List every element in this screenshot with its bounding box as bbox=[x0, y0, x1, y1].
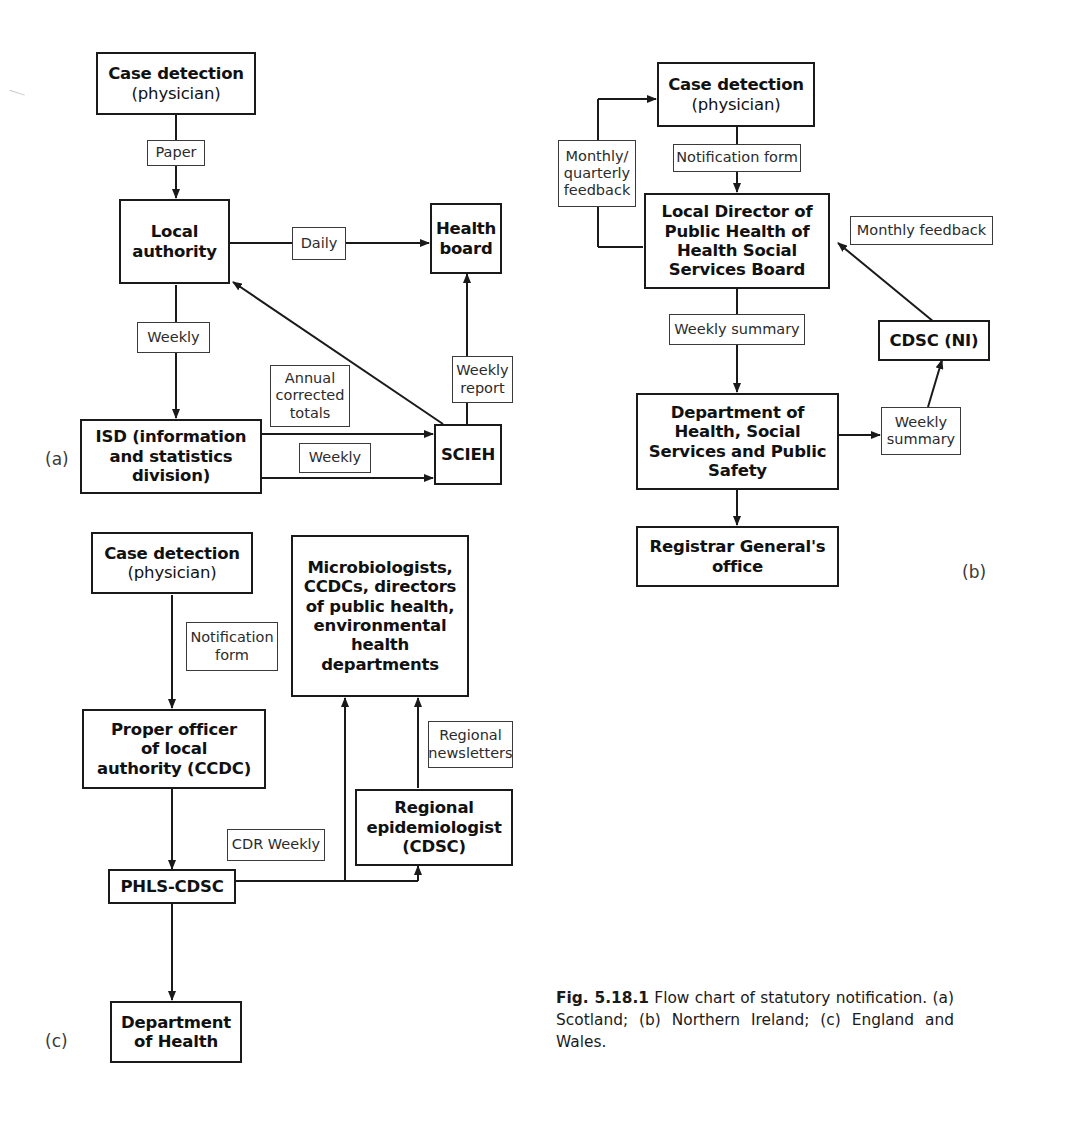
label-a-weekly-down-text: Weekly bbox=[147, 329, 199, 346]
label-a-annual-line3: totals bbox=[290, 405, 331, 422]
figure-canvas: Case detection (physician) Paper Local a… bbox=[0, 0, 1070, 1122]
label-a-paper[interactable]: Paper bbox=[147, 140, 205, 166]
node-b-ldph-line3: Health Social bbox=[662, 241, 813, 260]
label-a-weekly-down[interactable]: Weekly bbox=[137, 322, 210, 353]
node-c-micro-line4: environmental bbox=[304, 616, 456, 635]
label-a-daily[interactable]: Daily bbox=[292, 227, 346, 260]
node-c-regional-line2: epidemiologist bbox=[366, 818, 501, 837]
label-b-weekly-summary-2-line2: summary bbox=[887, 431, 955, 448]
node-a-case-detection[interactable]: Case detection (physician) bbox=[96, 52, 256, 115]
node-a-health-board-line2: board bbox=[436, 239, 496, 258]
node-b-registrar-line1: Registrar General's bbox=[650, 537, 826, 556]
node-c-proper-officer[interactable]: Proper officer of local authority (CCDC) bbox=[82, 709, 266, 789]
node-b-dept-line2: Health, Social bbox=[649, 422, 827, 441]
label-c-notification-line1: Notification bbox=[190, 629, 273, 646]
label-a-weekly-mid[interactable]: Weekly bbox=[299, 443, 371, 473]
label-b-monthlyq-line1: Monthly/ bbox=[566, 148, 629, 165]
node-b-registrar-line2: office bbox=[650, 557, 826, 576]
node-a-scieh-title: SCIEH bbox=[441, 445, 495, 464]
label-a-weekly-report-line2: report bbox=[460, 380, 504, 397]
node-b-ldph-line1: Local Director of bbox=[662, 202, 813, 221]
label-b-notification-form-text: Notification form bbox=[676, 149, 798, 166]
node-a-local-authority-line1: Local bbox=[132, 222, 217, 241]
label-a-daily-text: Daily bbox=[301, 235, 338, 252]
node-b-local-director[interactable]: Local Director of Public Health of Healt… bbox=[644, 193, 830, 289]
figure-caption-prefix: Fig. 5.18.1 bbox=[556, 989, 649, 1007]
label-b-monthly-feedback[interactable]: Monthly feedback bbox=[850, 216, 993, 245]
node-c-micro-line2: CCDCs, directors bbox=[304, 577, 456, 596]
label-b-weekly-summary-1[interactable]: Weekly summary bbox=[669, 314, 805, 345]
node-c-case-detection-title: Case detection bbox=[104, 544, 240, 563]
node-a-isd-line3: division) bbox=[96, 466, 247, 485]
label-a-weekly-report[interactable]: Weekly report bbox=[452, 356, 513, 403]
node-c-doh-line1: Department bbox=[121, 1013, 231, 1032]
scan-artifact bbox=[7, 90, 25, 103]
node-b-case-detection-title: Case detection bbox=[668, 75, 804, 94]
node-b-dept-line4: Safety bbox=[649, 461, 827, 480]
node-a-health-board-line1: Health bbox=[436, 219, 496, 238]
node-b-ldph-line2: Public Health of bbox=[662, 222, 813, 241]
node-a-isd-line2: and statistics bbox=[96, 447, 247, 466]
label-b-monthly-quarterly-feedback[interactable]: Monthly/ quarterly feedback bbox=[558, 140, 636, 207]
label-a-paper-text: Paper bbox=[155, 144, 196, 161]
figure-caption: Fig. 5.18.1 Flow chart of statutory noti… bbox=[556, 988, 954, 1054]
node-b-cdsc-ni-title: CDSC (NI) bbox=[890, 331, 979, 350]
label-b-weekly-summary-2[interactable]: Weekly summary bbox=[881, 407, 961, 455]
label-c-regnews-line1: Regional bbox=[439, 727, 502, 744]
panel-label-b: (b) bbox=[962, 562, 986, 582]
node-a-case-detection-title: Case detection bbox=[108, 64, 244, 83]
label-b-monthlyq-line3: feedback bbox=[564, 182, 631, 199]
node-c-regional-line1: Regional bbox=[366, 798, 501, 817]
label-c-cdr-weekly[interactable]: CDR Weekly bbox=[227, 829, 325, 861]
node-b-cdsc-ni[interactable]: CDSC (NI) bbox=[878, 320, 990, 361]
node-c-case-detection[interactable]: Case detection (physician) bbox=[91, 532, 253, 594]
node-c-proper-line2: of local bbox=[97, 739, 251, 758]
node-c-regional-epidemiologist[interactable]: Regional epidemiologist (CDSC) bbox=[355, 789, 513, 866]
node-b-ldph-line4: Services Board bbox=[662, 260, 813, 279]
label-a-weekly-mid-text: Weekly bbox=[309, 449, 361, 466]
node-c-micro-line1: Microbiologists, bbox=[304, 558, 456, 577]
label-a-annual-line2: corrected bbox=[276, 387, 345, 404]
node-b-case-detection-subtitle: (physician) bbox=[668, 95, 804, 114]
node-c-micro-line5: health bbox=[304, 635, 456, 654]
node-b-department[interactable]: Department of Health, Social Services an… bbox=[636, 393, 839, 490]
node-b-dept-line1: Department of bbox=[649, 403, 827, 422]
label-b-monthly-feedback-text: Monthly feedback bbox=[857, 222, 986, 239]
node-c-proper-line1: Proper officer bbox=[97, 720, 251, 739]
label-b-weekly-summary-1-text: Weekly summary bbox=[674, 321, 799, 338]
label-c-notification-form[interactable]: Notification form bbox=[186, 622, 278, 671]
label-a-weekly-report-line1: Weekly bbox=[456, 362, 508, 379]
node-c-phls-cdsc-title: PHLS-CDSC bbox=[120, 877, 223, 896]
node-c-phls-cdsc[interactable]: PHLS-CDSC bbox=[108, 869, 236, 904]
node-b-registrar-general[interactable]: Registrar General's office bbox=[636, 526, 839, 587]
label-c-regnews-line2: newsletters bbox=[428, 745, 512, 762]
node-c-micro-line3: of public health, bbox=[304, 597, 456, 616]
label-a-annual-line1: Annual bbox=[285, 370, 335, 387]
node-a-isd-line1: ISD (information bbox=[96, 427, 247, 446]
label-a-annual-corrected-totals[interactable]: Annual corrected totals bbox=[270, 365, 350, 427]
node-c-proper-line3: authority (CCDC) bbox=[97, 759, 251, 778]
node-b-case-detection[interactable]: Case detection (physician) bbox=[657, 62, 815, 127]
node-b-dept-line3: Services and Public bbox=[649, 442, 827, 461]
label-c-cdr-weekly-text: CDR Weekly bbox=[232, 836, 320, 853]
label-b-monthlyq-line2: quarterly bbox=[564, 165, 630, 182]
label-c-notification-line2: form bbox=[215, 647, 249, 664]
panel-label-a: (a) bbox=[45, 449, 69, 469]
node-a-isd[interactable]: ISD (information and statistics division… bbox=[80, 419, 262, 494]
node-a-local-authority-line2: authority bbox=[132, 242, 217, 261]
node-a-health-board[interactable]: Health board bbox=[430, 203, 502, 274]
node-a-scieh[interactable]: SCIEH bbox=[434, 424, 502, 485]
node-c-micro-line6: departments bbox=[304, 655, 456, 674]
node-a-case-detection-subtitle: (physician) bbox=[108, 84, 244, 103]
node-c-doh-line2: of Health bbox=[121, 1032, 231, 1051]
label-c-regional-newsletters[interactable]: Regional newsletters bbox=[428, 721, 513, 768]
node-c-department-of-health[interactable]: Department of Health bbox=[110, 1001, 242, 1063]
node-c-microbiologists[interactable]: Microbiologists, CCDCs, directors of pub… bbox=[291, 535, 469, 697]
node-c-regional-line3: (CDSC) bbox=[366, 837, 501, 856]
label-b-notification-form[interactable]: Notification form bbox=[673, 144, 801, 172]
panel-label-c: (c) bbox=[45, 1031, 68, 1051]
node-c-case-detection-subtitle: (physician) bbox=[104, 563, 240, 582]
node-a-local-authority[interactable]: Local authority bbox=[119, 199, 230, 284]
label-b-weekly-summary-2-line1: Weekly bbox=[895, 414, 947, 431]
